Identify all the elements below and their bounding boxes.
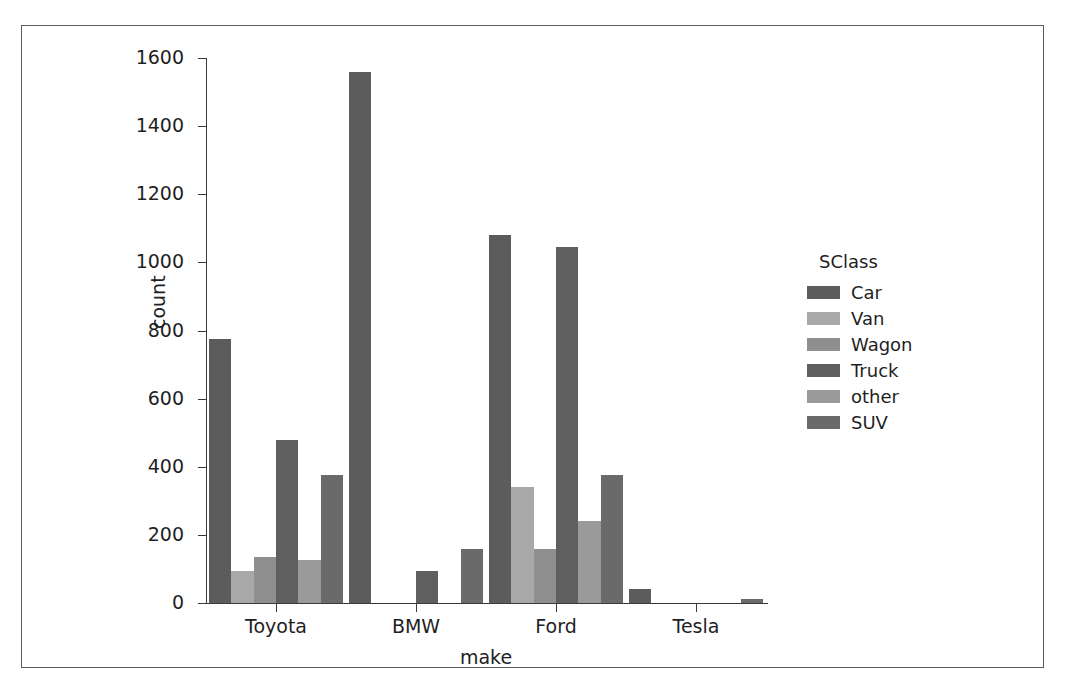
x-tick-mark (556, 604, 557, 612)
bar-ford-truck (556, 247, 578, 603)
x-axis-title-text: make (460, 646, 512, 668)
y-tick-mark (198, 331, 206, 332)
bar-tesla-suv (741, 599, 763, 603)
bar-toyota-car (209, 339, 231, 603)
bar-toyota-suv (321, 475, 343, 603)
x-tick-mark (416, 604, 417, 612)
x-axis-title: make (22, 646, 1045, 668)
y-tick-mark (198, 58, 206, 59)
chart-screenshot: 02004006008001000120014001600 ToyotaBMWF… (0, 0, 1065, 692)
x-tick-label-ford: Ford (496, 615, 616, 637)
bar-toyota-van (231, 571, 253, 603)
plot-area (206, 58, 766, 603)
y-tick-label: 1000 (136, 250, 184, 272)
bar-ford-other (578, 521, 600, 603)
y-tick-label: 200 (148, 523, 184, 545)
legend-label-other: other (851, 386, 899, 407)
y-axis-title: count (147, 275, 169, 329)
legend-label-car: Car (851, 282, 882, 303)
legend-swatch-wagon (807, 338, 840, 351)
y-tick-label: 400 (148, 455, 184, 477)
legend: SClass CarVanWagonTruckotherSUV (807, 251, 957, 435)
y-tick-label: 600 (148, 387, 184, 409)
y-tick-label: 1400 (136, 114, 184, 136)
y-tick-label: 0 (172, 591, 184, 613)
y-tick-mark (198, 467, 206, 468)
y-tick-label: 1600 (136, 46, 184, 68)
x-tick-mark (276, 604, 277, 612)
figure-frame: 02004006008001000120014001600 ToyotaBMWF… (21, 25, 1044, 668)
legend-label-van: Van (851, 308, 884, 329)
legend-swatch-suv (807, 416, 840, 429)
y-tick-mark (198, 603, 206, 604)
y-tick-mark (198, 399, 206, 400)
legend-label-wagon: Wagon (851, 334, 913, 355)
bar-toyota-other (298, 560, 320, 603)
x-tick-mark (696, 604, 697, 612)
bar-ford-van (511, 487, 533, 603)
legend-entry-wagon: Wagon (807, 331, 957, 357)
bar-bmw-suv (461, 549, 483, 604)
x-tick-label-toyota: Toyota (216, 615, 336, 637)
legend-swatch-other (807, 390, 840, 403)
y-tick-mark (198, 535, 206, 536)
legend-swatch-car (807, 286, 840, 299)
legend-label-truck: Truck (851, 360, 898, 381)
x-axis-line (206, 603, 768, 604)
legend-swatch-truck (807, 364, 840, 377)
legend-entry-suv: SUV (807, 409, 957, 435)
y-tick-mark (198, 194, 206, 195)
legend-entry-other: other (807, 383, 957, 409)
bar-toyota-wagon (254, 557, 276, 603)
bar-bmw-car (349, 72, 371, 603)
legend-entries: CarVanWagonTruckotherSUV (807, 279, 957, 435)
bar-ford-suv (601, 475, 623, 603)
legend-title: SClass (819, 251, 957, 272)
legend-entry-truck: Truck (807, 357, 957, 383)
y-tick-label: 1200 (136, 182, 184, 204)
bar-ford-wagon (534, 549, 556, 604)
y-tick-mark (198, 262, 206, 263)
bar-ford-car (489, 235, 511, 603)
legend-entry-van: Van (807, 305, 957, 331)
bar-toyota-truck (276, 440, 298, 604)
y-tick-mark (198, 126, 206, 127)
x-tick-label-bmw: BMW (356, 615, 476, 637)
legend-swatch-van (807, 312, 840, 325)
legend-entry-car: Car (807, 279, 957, 305)
bar-bmw-truck (416, 571, 438, 603)
x-tick-label-tesla: Tesla (636, 615, 756, 637)
legend-label-suv: SUV (851, 412, 888, 433)
bar-tesla-car (629, 589, 651, 603)
